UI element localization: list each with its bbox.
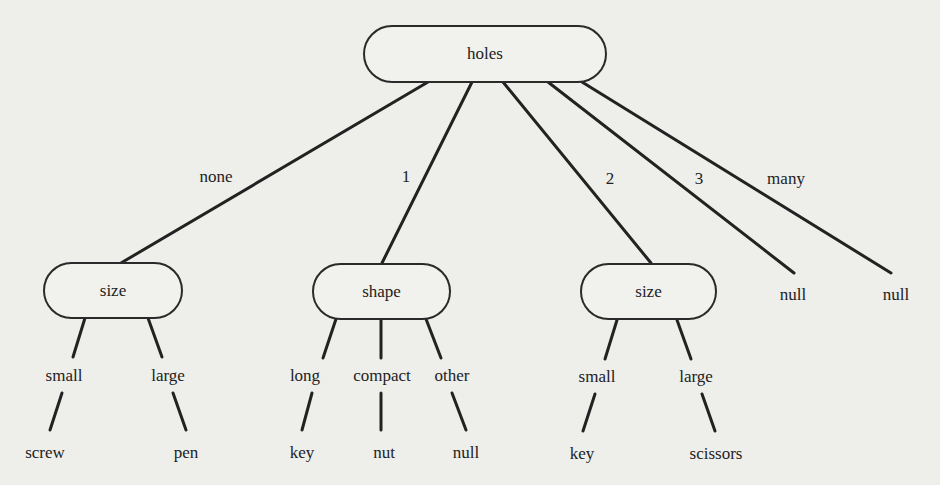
leaf-key: key xyxy=(290,444,315,461)
edge-label-large-2: large xyxy=(679,368,713,385)
node-size-left: size xyxy=(43,262,183,319)
edge-label-other: other xyxy=(435,367,470,384)
edge-small-screw xyxy=(50,393,62,430)
leaf-screw: screw xyxy=(25,444,65,461)
edge-label-large: large xyxy=(151,367,185,384)
edge-size-small xyxy=(73,318,85,357)
leaf-pen: pen xyxy=(174,444,199,461)
edge-shape-other xyxy=(426,319,441,358)
edge-holes-3 xyxy=(548,82,794,273)
edge-holes-2 xyxy=(503,82,651,263)
edge-long-key xyxy=(302,393,312,430)
edge-holes-many xyxy=(582,82,891,273)
leaf-null-3: null xyxy=(780,286,806,303)
decision-tree-diagram: holes size shape size none 1 2 3 many nu… xyxy=(0,0,940,485)
edge-size-large xyxy=(148,318,162,357)
node-size-right: size xyxy=(580,263,717,320)
node-holes: holes xyxy=(363,25,607,83)
edge-holes-none xyxy=(121,82,428,263)
edge-small-key xyxy=(583,394,595,431)
edge-size2-large xyxy=(677,320,691,359)
edge-size2-small xyxy=(605,320,617,359)
edge-label-small: small xyxy=(46,367,83,384)
edge-other-null xyxy=(452,393,466,430)
edge-label-1: 1 xyxy=(402,168,411,185)
leaf-null-many: null xyxy=(883,286,909,303)
edge-label-small-2: small xyxy=(579,368,616,385)
edge-shape-long xyxy=(323,319,336,358)
leaf-nut: nut xyxy=(373,444,395,461)
leaf-null-other: null xyxy=(453,444,479,461)
edge-label-2: 2 xyxy=(606,170,615,187)
edge-label-none: none xyxy=(199,168,232,185)
edge-label-long: long xyxy=(290,367,320,384)
edge-large-scissors xyxy=(702,394,715,431)
leaf-scissors: scissors xyxy=(690,445,743,462)
node-shape: shape xyxy=(312,263,451,320)
edge-label-3: 3 xyxy=(695,170,704,187)
edge-large-pen xyxy=(173,393,186,430)
edge-label-compact: compact xyxy=(353,367,411,384)
edge-label-many: many xyxy=(767,170,805,187)
edge-holes-1 xyxy=(382,82,472,263)
leaf-key-2: key xyxy=(570,445,595,462)
